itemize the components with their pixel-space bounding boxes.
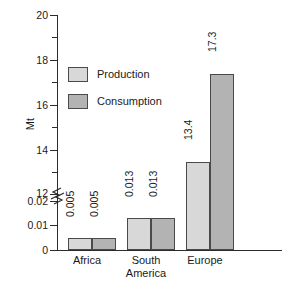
bar-value-africa-production: 0.005 <box>64 191 76 217</box>
y-tick-minor-15 <box>52 127 57 128</box>
bar-africa-production[interactable] <box>68 238 92 250</box>
legend-label-production: Production <box>97 68 150 80</box>
y-tick-14 <box>50 150 57 151</box>
y-tick-label-18: 18 <box>2 55 48 65</box>
y-tick-label-16: 16 <box>2 100 48 110</box>
y-tick-minor-13 <box>52 172 57 173</box>
y-tick-0 <box>50 250 57 251</box>
legend-label-consumption: Consumption <box>97 95 162 107</box>
legend: Production Consumption <box>68 66 162 120</box>
y-tick-18 <box>50 60 57 61</box>
x-category-label-south-america: South America <box>117 254 175 280</box>
y-tick-16 <box>50 105 57 106</box>
y-tick-minor-17 <box>52 82 57 83</box>
bar-south-america-production[interactable] <box>127 218 151 250</box>
y-tick-label-14: 14 <box>2 145 48 155</box>
y-axis-title: Mt <box>24 104 36 144</box>
bar-chart: Mt 20 18 16 14 12 0.02 0.01 <box>0 0 297 303</box>
y-tick-20 <box>50 15 57 16</box>
y-tick-label-0.02: 0.02 <box>2 196 48 206</box>
y-tick-minor-19 <box>52 37 57 38</box>
legend-swatch-production <box>68 67 88 82</box>
bar-value-europe-production: 13.4 <box>182 120 194 140</box>
y-tick-0.02 <box>50 201 57 202</box>
bar-value-south-america-production: 0.013 <box>123 171 135 197</box>
plot-area: 0.005 0.005 0.013 0.013 13.4 17.3 <box>58 15 282 250</box>
x-category-label-africa: Africa <box>58 254 116 267</box>
bar-value-south-america-consumption: 0.013 <box>147 171 159 197</box>
legend-item-production[interactable]: Production <box>68 66 162 82</box>
legend-swatch-consumption <box>68 94 88 109</box>
bar-europe-production[interactable] <box>186 162 210 250</box>
y-tick-label-0: 0 <box>2 245 48 255</box>
y-tick-0.01 <box>50 225 57 226</box>
x-category-label-europe: Europe <box>176 254 234 267</box>
bar-value-africa-consumption: 0.005 <box>88 191 100 217</box>
bar-africa-consumption[interactable] <box>92 238 116 250</box>
legend-item-consumption[interactable]: Consumption <box>68 93 162 109</box>
y-tick-label-0.01: 0.01 <box>2 220 48 230</box>
bar-value-europe-consumption: 17.3 <box>206 32 218 52</box>
bar-europe-consumption[interactable] <box>210 74 234 250</box>
bar-south-america-consumption[interactable] <box>151 218 175 250</box>
y-tick-label-20: 20 <box>2 10 48 20</box>
x-axis-line <box>57 250 282 251</box>
